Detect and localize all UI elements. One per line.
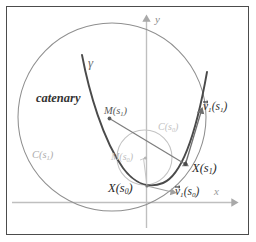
figure-canvas (0, 0, 256, 242)
center-label-s1-base: M(s (104, 105, 120, 116)
curve-point-label-s1-close: ) (213, 161, 217, 175)
curve-point-label-s0: X(s0) (108, 182, 133, 195)
center-label-s0: M(s0) (111, 152, 133, 162)
circle-label-s0-sub: 0 (172, 126, 175, 133)
tangent-vector-s1 (186, 112, 202, 164)
gamma-label: γ (88, 56, 93, 69)
curve-point-label-s1: X(s1) (192, 162, 217, 175)
circle-label-s1-close: ) (50, 149, 54, 160)
vector-arg-close-s1: ) (224, 100, 228, 112)
catenary-label: catenary (36, 92, 80, 105)
center-label-s0-base: M(s (111, 151, 127, 162)
figure-root: y x γ catenary C(s1) C(s0) M(s1) M(s0) X… (0, 0, 256, 242)
vector-arg-sub-s0: 0 (192, 191, 196, 199)
tangent-vector-label-s0: v1(s0) (175, 186, 199, 198)
center-label-s0-close: ) (130, 151, 133, 162)
circle-label-s0-base: C(s (158, 121, 172, 132)
center-label-s1-sub: 1 (120, 110, 123, 117)
vector-arg-close-s0: ) (196, 185, 200, 197)
curve-point-s0 (145, 184, 148, 187)
center-label-s1: M(s1) (104, 106, 127, 117)
vector-index-s0: 1 (180, 191, 184, 199)
curve-point-label-s1-sub: 1 (209, 167, 213, 176)
center-label-s1-close: ) (124, 105, 128, 116)
circle-label-s0-close: ) (175, 121, 178, 132)
center-point-s0 (144, 156, 147, 159)
circle-label-s1: C(s1) (32, 150, 53, 161)
circle-label-s1-base: C(s (32, 149, 47, 160)
circle-label-s0: C(s0) (158, 122, 178, 132)
tangent-vector-s0 (147, 186, 172, 192)
vector-arg-open-s1: (s (212, 100, 220, 112)
vector-index-s1: 1 (208, 106, 212, 114)
vector-arg-open-s0: (s (184, 185, 192, 197)
curve-point-label-s0-sub: 0 (125, 187, 129, 196)
x-axis-label: x (214, 186, 219, 197)
center-point-s1 (108, 117, 112, 121)
center-label-s0-sub: 0 (127, 156, 130, 163)
circle-label-s1-sub: 1 (47, 154, 50, 161)
tangent-vector-label-s1: v1(s1) (203, 101, 227, 113)
vector-arg-sub-s1: 1 (220, 106, 224, 114)
curve-point-label-s0-base: X(s (108, 181, 125, 195)
curve-point-s1 (184, 162, 188, 166)
curve-point-label-s1-base: X(s (192, 161, 209, 175)
curve-point-label-s0-close: ) (129, 181, 133, 195)
y-axis-label: y (155, 14, 160, 25)
